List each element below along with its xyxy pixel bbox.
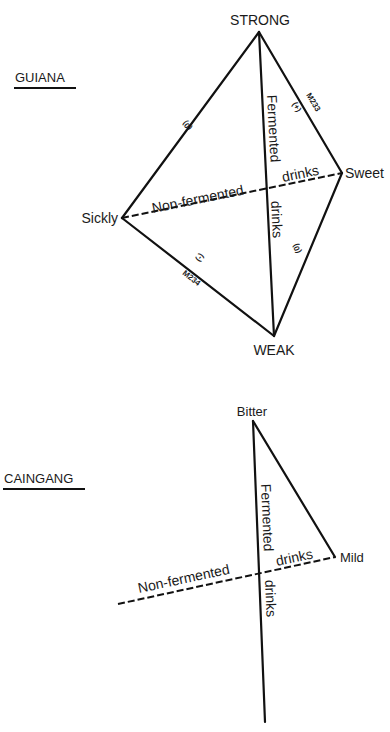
axis-label-fermented-drinks: drinks (268, 200, 286, 238)
guiana-title: GUIANA (15, 70, 65, 85)
vertex-bitter: Bitter (237, 404, 268, 419)
axis-label-fermented: Fermented (264, 94, 284, 162)
vertex-sweet: Sweet (345, 165, 384, 181)
axis-label-non-fermented-drinks: drinks (280, 162, 320, 185)
axis-fermented (253, 421, 265, 722)
vertex-mild: Mild (340, 550, 364, 565)
edge-label-zero-left: (0) (180, 119, 193, 132)
edge-label-m234: M234 (181, 268, 203, 288)
edge-label-m233: M233 (304, 91, 322, 113)
edge-sweet-weak (274, 173, 342, 336)
vertex-strong: STRONG (230, 12, 290, 28)
vertex-weak: WEAK (253, 342, 295, 358)
edge-label-zero-right: (0) (291, 242, 303, 255)
caingang-title: CAINGANG (4, 471, 73, 486)
diagram-canvas: GUIANA STRONG Sickly Sweet WEAK Fermente… (0, 0, 390, 732)
axis-label-fermented: Fermented (258, 483, 277, 551)
axis-label-non-fermented: Non-fermented (150, 182, 245, 216)
edge-label-minus: (-) (193, 251, 205, 263)
axis-label-fermented-drinks: drinks (262, 579, 280, 617)
vertex-sickly: Sickly (81, 210, 118, 226)
caingang-diagram: CAINGANG Bitter Mild Fermented drinks No… (3, 404, 364, 722)
axis-fermented (259, 32, 274, 336)
guiana-diagram: GUIANA STRONG Sickly Sweet WEAK Fermente… (14, 12, 384, 358)
